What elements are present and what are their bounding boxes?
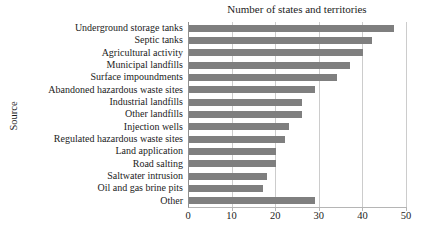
bar-row: Underground storage tanks xyxy=(0,22,406,34)
bar-other xyxy=(189,197,315,204)
bar-row: Municipal landfills xyxy=(0,59,406,71)
x-tick-label-0: 0 xyxy=(176,210,200,221)
bar-land-application xyxy=(189,148,276,155)
bar-abandoned-hazardous-waste-sites xyxy=(189,86,315,93)
bar-row: Abandoned hazardous waste sites xyxy=(0,84,406,96)
x-tick-label-50: 50 xyxy=(394,210,418,221)
bar-row: Septic tanks xyxy=(0,34,406,46)
bar-rows: Underground storage tanksSeptic tanksAgr… xyxy=(0,22,406,207)
bar-row: Agricultural activity xyxy=(0,47,406,59)
bar-row: Land application xyxy=(0,145,406,157)
bar-regulated-hazardous-waste-sites xyxy=(189,136,285,143)
x-tick-label-10: 10 xyxy=(220,210,244,221)
category-label: Septic tanks xyxy=(0,34,183,45)
category-label: Regulated hazardous waste sites xyxy=(0,133,183,144)
category-label: Underground storage tanks xyxy=(0,22,183,33)
bar-agricultural-activity xyxy=(189,49,363,56)
category-label: Municipal landfills xyxy=(0,59,183,70)
category-label: Land application xyxy=(0,145,183,156)
category-label: Oil and gas brine pits xyxy=(0,182,183,193)
bar-surface-impoundments xyxy=(189,74,337,81)
bar-row: Other xyxy=(0,195,406,207)
bar-row: Other landfills xyxy=(0,108,406,120)
bar-row: Oil and gas brine pits xyxy=(0,182,406,194)
bar-oil-and-gas-brine-pits xyxy=(189,185,263,192)
bar-chart-figure: Number of states and territories Source … xyxy=(0,0,428,236)
category-label: Saltwater intrusion xyxy=(0,170,183,181)
bar-other-landfills xyxy=(189,111,302,118)
category-label: Industrial landfills xyxy=(0,96,183,107)
bar-injection-wells xyxy=(189,123,289,130)
bar-row: Road salting xyxy=(0,158,406,170)
x-axis-tick-labels: 01020304050 xyxy=(0,210,428,224)
bar-row: Surface impoundments xyxy=(0,71,406,83)
bar-saltwater-intrusion xyxy=(189,173,267,180)
bar-row: Industrial landfills xyxy=(0,96,406,108)
bar-septic-tanks xyxy=(189,37,372,44)
bar-underground-storage-tanks xyxy=(189,25,394,32)
chart-title: Number of states and territories xyxy=(188,3,406,16)
category-label: Other xyxy=(0,195,183,206)
category-label: Agricultural activity xyxy=(0,47,183,58)
bar-row: Saltwater intrusion xyxy=(0,170,406,182)
category-label: Injection wells xyxy=(0,121,183,132)
bar-row: Injection wells xyxy=(0,121,406,133)
bar-road-salting xyxy=(189,160,276,167)
bar-industrial-landfills xyxy=(189,99,302,106)
category-label: Road salting xyxy=(0,158,183,169)
category-label: Surface impoundments xyxy=(0,71,183,82)
x-tick-label-40: 40 xyxy=(350,210,374,221)
bar-row: Regulated hazardous waste sites xyxy=(0,133,406,145)
gridline-x-50 xyxy=(406,22,407,207)
category-label: Other landfills xyxy=(0,108,183,119)
category-label: Abandoned hazardous waste sites xyxy=(0,84,183,95)
x-tick-label-20: 20 xyxy=(263,210,287,221)
bar-municipal-landfills xyxy=(189,62,350,69)
x-tick-label-30: 30 xyxy=(307,210,331,221)
